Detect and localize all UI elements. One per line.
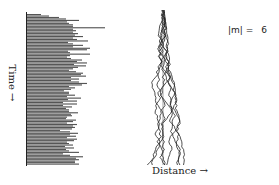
m-annotation: |m| =6: [228, 25, 267, 35]
bar: [27, 71, 76, 72]
bar: [27, 27, 105, 28]
bar: [27, 99, 68, 100]
bar: [27, 45, 83, 46]
bar: [27, 37, 73, 38]
bar: [27, 133, 78, 134]
bar: [27, 51, 68, 52]
bar: [27, 137, 67, 138]
bar: [27, 128, 72, 129]
bar: [27, 131, 70, 132]
bar: [27, 70, 69, 71]
bar: [27, 35, 75, 36]
bar: [27, 46, 73, 47]
bar: [27, 161, 75, 162]
bar: [27, 112, 78, 113]
bar: [27, 43, 73, 44]
bar: [27, 117, 67, 118]
bar: [27, 36, 83, 37]
bar: [27, 120, 76, 121]
bar: [27, 114, 71, 115]
bar: [27, 57, 67, 58]
bar: [27, 81, 79, 82]
bar: [27, 33, 78, 34]
bar: [27, 54, 90, 55]
bar: [27, 106, 72, 107]
bar: [27, 64, 74, 65]
bar: [27, 79, 79, 80]
m-label: |m| =: [228, 25, 253, 35]
histogram-bars: [27, 14, 105, 165]
bar: [27, 20, 79, 21]
bar: [27, 121, 73, 122]
bar: [27, 55, 70, 56]
bar: [27, 80, 71, 81]
bar: [27, 29, 73, 30]
bar: [27, 62, 87, 63]
bar: [27, 143, 69, 144]
bar: [27, 39, 77, 40]
bar: [27, 140, 74, 141]
bar: [27, 122, 67, 123]
bar: [27, 67, 78, 68]
bar: [27, 48, 90, 49]
figure: Time → Distance → |m| =6: [0, 0, 279, 185]
y-axis-label: Time →: [2, 58, 22, 108]
x-axis-label: Distance →: [152, 165, 208, 176]
bar: [27, 159, 79, 160]
bar: [27, 87, 75, 88]
bar: [27, 105, 63, 106]
bar: [27, 153, 63, 154]
y-axis-label-text: Time →: [7, 65, 18, 102]
m-value: 6: [261, 25, 267, 35]
bar: [27, 32, 73, 33]
bar: [27, 42, 68, 43]
bar: [27, 24, 73, 25]
bar: [27, 76, 86, 77]
bar: [27, 15, 49, 16]
bar: [27, 90, 64, 91]
bar: [27, 93, 69, 94]
bar: [27, 84, 82, 85]
bar: [27, 150, 69, 151]
bar: [27, 127, 75, 128]
bar: [27, 68, 73, 69]
bar: [27, 136, 76, 137]
bar: [27, 14, 41, 15]
bar: [27, 102, 63, 103]
bar: [27, 115, 72, 116]
bar: [27, 83, 87, 84]
bar: [27, 162, 75, 163]
bar: [27, 103, 77, 104]
random-walk-traces: [147, 10, 184, 165]
bar: [27, 147, 74, 148]
bar: [27, 164, 79, 165]
bar: [27, 89, 71, 90]
bar: [27, 61, 77, 62]
bar: [27, 108, 66, 109]
bar: [27, 18, 66, 19]
bar: [27, 144, 73, 145]
bar: [27, 49, 87, 50]
bar: [27, 40, 88, 41]
bar: [27, 59, 82, 60]
bar: [27, 134, 70, 135]
bar: [27, 52, 70, 53]
bar: [27, 155, 70, 156]
bar: [27, 23, 69, 24]
bar: [27, 30, 76, 31]
bar: [27, 109, 69, 110]
bar: [27, 17, 59, 18]
bar: [27, 152, 79, 153]
bar: [27, 118, 66, 119]
bar: [27, 26, 73, 27]
bar: [27, 125, 73, 126]
bar: [27, 74, 81, 75]
bar: [27, 77, 71, 78]
bar: [27, 101, 77, 102]
bar: [27, 146, 65, 147]
bar: [27, 139, 77, 140]
bar: [27, 65, 86, 66]
bar: [27, 96, 67, 97]
bar: [27, 130, 60, 131]
bar: [27, 86, 69, 87]
